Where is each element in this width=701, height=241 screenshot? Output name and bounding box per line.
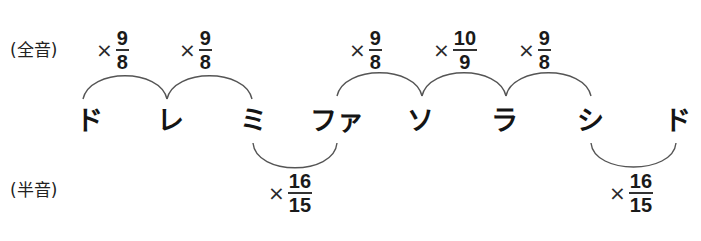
ratio-si-do: × 16 15 [609,172,653,214]
note-re: レ [155,106,185,136]
arc-si-do [591,143,676,167]
ratio-la-si: × 9 8 [518,29,551,71]
multiply-sign: × [179,40,196,60]
ratio-mi-fa: × 16 15 [268,172,312,214]
arc-la-si [506,73,591,96]
denominator: 8 [116,53,129,71]
half-tone-label: (半音) [10,180,57,200]
note-do: ド [74,106,104,136]
denominator: 8 [369,53,382,71]
numerator: 16 [288,172,312,191]
numerator: 10 [453,29,477,48]
fraction: 16 15 [288,172,312,214]
denominator: 8 [538,53,551,71]
multiply-sign: × [433,40,450,60]
denominator: 8 [199,53,212,71]
numerator: 9 [116,29,129,48]
numerator: 9 [538,29,551,48]
note-mi: ミ [238,106,268,136]
arc-so-la [422,73,506,96]
fraction: 10 9 [453,29,477,71]
ratio-re-mi: × 9 8 [179,29,212,71]
denominator: 9 [458,53,471,71]
note-so: ソ [405,106,435,136]
fraction: 16 15 [629,172,653,214]
arc-fa-so [337,73,422,96]
fraction: 9 8 [538,29,551,71]
whole-tone-label: (全音) [10,40,57,60]
note-do-high: ド [662,106,692,136]
note-la: ラ [489,106,519,136]
denominator: 15 [629,196,653,214]
denominator: 15 [288,196,312,214]
note-si: シ [575,106,605,136]
numerator: 16 [629,172,653,191]
multiply-sign: × [268,183,285,203]
numerator: 9 [199,29,212,48]
multiply-sign: × [96,40,113,60]
fraction: 9 8 [116,29,129,71]
arc-re-mi [167,76,252,99]
multiply-sign: × [349,40,366,60]
multiply-sign: × [609,183,626,203]
ratio-so-la: × 10 9 [433,29,477,71]
ratio-fa-so: × 9 8 [349,29,382,71]
fraction: 9 8 [199,29,212,71]
arc-mi-fa [253,143,337,168]
arc-do-re [83,76,167,99]
ratio-do-re: × 9 8 [96,29,129,71]
note-fa: ファ [310,106,362,136]
numerator: 9 [369,29,382,48]
multiply-sign: × [518,40,535,60]
fraction: 9 8 [369,29,382,71]
